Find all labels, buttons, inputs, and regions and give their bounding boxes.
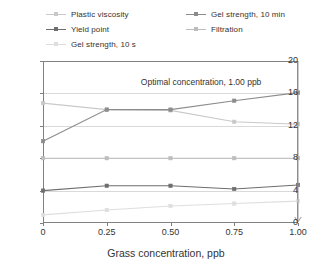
legend-marker-square-icon [194,12,198,16]
legend-swatch-icon [186,10,206,19]
data-point-marker [233,120,236,123]
legend-label: Yield point [71,25,109,34]
legend-swatch-icon [46,25,66,34]
legend-label: Filtration [211,25,243,34]
x-tick-mark [298,223,299,226]
x-tick-label: 1.00 [278,227,318,237]
data-point-marker [233,157,236,160]
chart-container: Plastic viscosity Yield point Gel streng… [0,0,332,271]
data-point-marker [105,184,108,187]
series-line [43,93,298,142]
data-point-marker [41,101,44,104]
legend-label: Gel strength, 10 s [71,40,136,49]
plot-area: 048121620 00.250.500.751.00 Optimal conc… [43,61,298,223]
chart-legend: Plastic viscosity Yield point Gel streng… [0,0,332,58]
data-point-marker [169,204,172,207]
x-tick-mark [234,223,235,226]
data-point-marker [41,139,44,142]
data-point-marker [41,213,44,216]
legend-item-gel-strength-10-min[interactable]: Gel strength, 10 min [186,10,285,19]
x-axis-title: Grass concentration, ppb [0,247,332,259]
data-point-marker [169,108,172,111]
optimal-concentration-annotation: Optimal concentration, 1.00 ppb [141,77,262,87]
x-tick-mark [107,223,108,226]
x-tick-label: 0.25 [87,227,127,237]
legend-marker-square-icon [54,12,58,16]
legend-marker-square-icon [54,42,58,46]
x-tick-label: 0.50 [151,227,191,237]
data-point-marker [233,202,236,205]
legend-item-gel-strength-10-s[interactable]: Gel strength, 10 s [46,40,136,49]
data-point-marker [233,99,236,102]
x-tick-mark [43,223,44,226]
data-point-marker [105,108,108,111]
data-point-marker [41,157,44,160]
legend-swatch-icon [46,10,66,19]
x-tick-label: 0 [23,227,63,237]
legend-swatch-icon [186,25,206,34]
data-point-marker [233,187,236,190]
data-point-marker [169,184,172,187]
data-point-marker [169,157,172,160]
x-tick-label: 0.75 [214,227,254,237]
legend-item-yield-point[interactable]: Yield point [46,25,109,34]
legend-marker-square-icon [54,27,58,31]
legend-item-filtration[interactable]: Filtration [186,25,243,34]
legend-marker-square-icon [194,27,198,31]
series-line [43,201,298,215]
data-point-marker [105,208,108,211]
legend-swatch-icon [46,40,66,49]
data-point-marker [41,189,44,192]
legend-label: Plastic viscosity [71,10,129,19]
series-line [43,103,298,124]
data-point-marker [105,157,108,160]
legend-item-plastic-viscosity[interactable]: Plastic viscosity [46,10,129,19]
x-tick-mark [171,223,172,226]
legend-label: Gel strength, 10 min [211,10,285,19]
